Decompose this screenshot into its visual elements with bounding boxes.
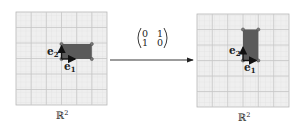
left-unit-rectangle: [62, 44, 92, 59]
left-plane: e2 e1 ℝ2: [16, 12, 107, 121]
right-paren: [164, 28, 167, 48]
matrix-a22: 0: [157, 37, 163, 48]
matrix-a21: 1: [142, 37, 148, 48]
transform-matrix: 0 1 1 0: [138, 28, 167, 48]
right-plane: e2 e1 ℝ2: [197, 14, 289, 123]
diagram-canvas: e2 e1 ℝ2 0 1 1 0: [0, 0, 305, 128]
left-paren: [138, 28, 141, 48]
right-unit-rectangle: [243, 30, 258, 61]
transform: 0 1 1 0: [110, 28, 193, 60]
right-plane-label: ℝ2: [238, 111, 250, 123]
left-plane-label: ℝ2: [56, 109, 68, 121]
